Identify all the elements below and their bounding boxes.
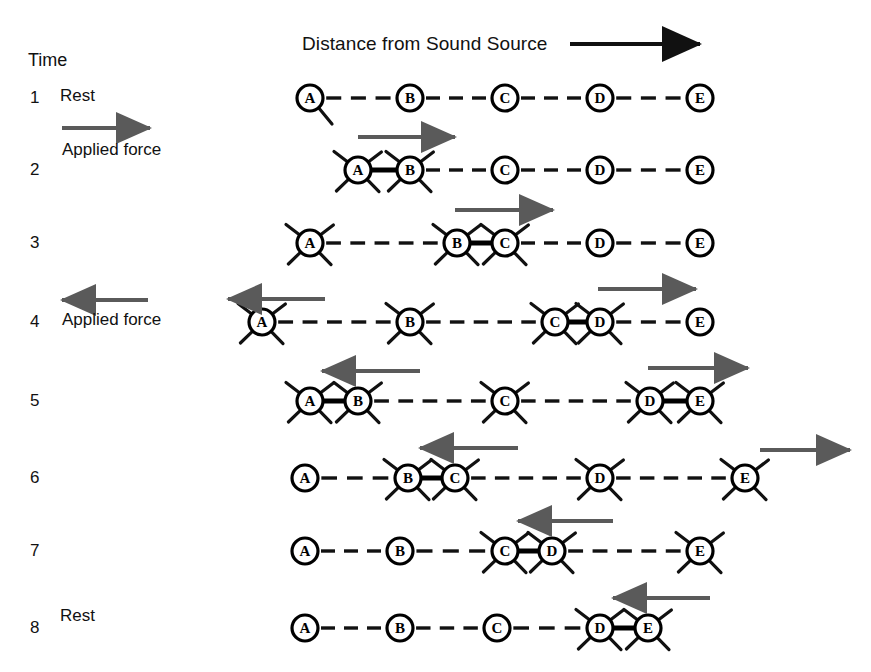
particle-node-E[interactable] xyxy=(687,538,713,564)
particle-node-C[interactable] xyxy=(484,615,510,641)
vibration-spoke xyxy=(320,411,331,423)
particle-node-B[interactable] xyxy=(387,615,413,641)
particle-node-B[interactable] xyxy=(397,309,423,335)
particle-node-E[interactable] xyxy=(687,388,713,414)
vibration-spoke xyxy=(273,304,285,314)
particle-node-B[interactable] xyxy=(345,388,371,414)
vibration-spoke xyxy=(676,382,689,392)
vibration-spoke xyxy=(467,253,478,265)
particle-node-A[interactable] xyxy=(297,85,323,111)
vibration-spoke xyxy=(433,224,446,234)
particle-node-A[interactable] xyxy=(249,309,275,335)
diagram-row xyxy=(334,137,713,192)
vibration-spoke xyxy=(336,180,348,191)
particle-node-D[interactable] xyxy=(587,309,613,335)
vibration-spoke xyxy=(421,304,433,314)
particle-node-A[interactable] xyxy=(297,230,323,256)
particle-node-C[interactable] xyxy=(442,465,468,491)
vibration-spoke xyxy=(420,180,431,192)
vibration-spoke xyxy=(611,304,623,314)
vibration-spoke xyxy=(755,488,766,500)
particle-node-C[interactable] xyxy=(542,309,568,335)
vibration-spoke xyxy=(710,561,721,573)
particle-node-B[interactable] xyxy=(397,85,423,111)
vibration-spoke xyxy=(516,225,528,235)
particle-node-E[interactable] xyxy=(732,465,758,491)
vibration-spoke xyxy=(386,151,399,161)
particle-node-C[interactable] xyxy=(492,538,518,564)
vibration-spoke xyxy=(369,383,381,393)
particle-node-A[interactable] xyxy=(292,538,318,564)
vibration-spoke xyxy=(238,303,251,313)
particle-node-E[interactable] xyxy=(687,157,713,183)
diagram-row xyxy=(292,448,850,500)
row-number: 2 xyxy=(30,160,39,180)
particle-node-A[interactable] xyxy=(297,388,323,414)
vibration-spoke xyxy=(421,152,433,162)
vibration-spoke xyxy=(578,488,590,499)
particle-node-D[interactable] xyxy=(539,538,565,564)
vibration-spoke xyxy=(533,332,545,343)
vibration-spoke xyxy=(659,610,671,620)
vibration-spoke xyxy=(626,638,638,649)
vibration-spoke xyxy=(576,609,589,619)
vibration-spoke xyxy=(578,332,590,343)
diagram-row xyxy=(292,521,723,573)
particle-node-E[interactable] xyxy=(635,615,661,641)
vibration-spoke xyxy=(562,561,573,573)
vibration-spoke xyxy=(318,107,332,124)
diagram-row xyxy=(228,289,713,344)
vibration-spoke xyxy=(658,638,669,650)
particle-node-A[interactable] xyxy=(345,157,371,183)
diagram-canvas: Time Distance from Sound Source ABCDEAB xyxy=(0,0,871,672)
particle-node-C[interactable] xyxy=(492,230,518,256)
row-number: 4 xyxy=(30,312,39,332)
particle-node-C[interactable] xyxy=(492,157,518,183)
vibration-spoke xyxy=(528,532,541,542)
particle-node-C[interactable] xyxy=(492,388,518,414)
particle-node-E[interactable] xyxy=(687,230,713,256)
particle-node-D[interactable] xyxy=(587,615,613,641)
vibration-spoke xyxy=(334,382,347,392)
particle-node-B[interactable] xyxy=(444,230,470,256)
vibration-spoke xyxy=(576,303,589,313)
particle-node-E[interactable] xyxy=(687,85,713,111)
particle-node-A[interactable] xyxy=(292,465,318,491)
vibration-spoke xyxy=(386,488,398,499)
vibration-spoke xyxy=(368,180,379,192)
vibration-spoke xyxy=(419,460,431,470)
particle-node-D[interactable] xyxy=(587,85,613,111)
vibration-spoke xyxy=(628,411,640,422)
vibration-spoke xyxy=(468,225,480,235)
vibration-spoke xyxy=(431,459,444,469)
vibration-spoke xyxy=(334,151,347,161)
particle-node-C[interactable] xyxy=(492,85,518,111)
vibration-spoke xyxy=(721,459,734,469)
vibration-spoke xyxy=(369,152,381,162)
particle-node-B[interactable] xyxy=(397,157,423,183)
particle-node-D[interactable] xyxy=(637,388,663,414)
vibration-spoke xyxy=(272,332,283,344)
vibration-spoke xyxy=(286,382,299,392)
row-number: 3 xyxy=(30,233,39,253)
diagram-row xyxy=(286,368,748,423)
vibration-spoke xyxy=(710,411,721,423)
particle-node-E[interactable] xyxy=(687,309,713,335)
vibration-spoke xyxy=(386,303,399,313)
vibration-spoke xyxy=(756,460,768,470)
vibration-spoke xyxy=(516,383,528,393)
particle-node-D[interactable] xyxy=(587,465,613,491)
vibration-spoke xyxy=(678,411,690,422)
row-state-label: Rest xyxy=(60,606,95,626)
particle-node-A[interactable] xyxy=(292,615,318,641)
vibration-spoke xyxy=(531,303,544,313)
row-state-label: Rest xyxy=(60,86,95,106)
particle-node-D[interactable] xyxy=(587,157,613,183)
particle-node-D[interactable] xyxy=(587,230,613,256)
vibration-spoke xyxy=(661,383,673,393)
vibration-spoke xyxy=(626,382,639,392)
particle-node-B[interactable] xyxy=(395,465,421,491)
vibration-spoke xyxy=(576,459,589,469)
vibration-spoke xyxy=(336,411,348,422)
particle-node-B[interactable] xyxy=(387,538,413,564)
